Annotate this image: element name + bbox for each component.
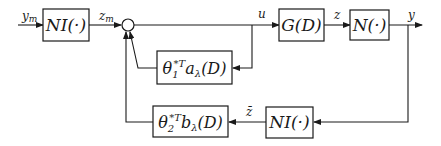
block-theta1-label: θ1*Taλ(D) [163,58,227,80]
summing-junction [122,19,134,31]
block-ni-input-label: NI(·) [45,15,86,35]
wire-theta2-to-sum [126,32,153,122]
block-diagram: NI(·) G(D) N(·) θ1*Taλ(D) θ2*Tbλ(D) NI(·… [0,0,441,146]
signal-label-y: y [407,8,415,22]
signal-label-u: u [258,7,266,21]
block-g-label: G(D) [281,15,321,35]
wire-theta1-to-sum [130,32,157,68]
signal-label-zbar: z̄ [245,105,253,119]
signal-label-z: z [333,8,341,22]
wire-u-to-theta1 [233,25,252,68]
signal-label-zm: zm [98,9,114,24]
block-n-label: N(·) [352,15,387,35]
signal-label-ym: ym [21,9,37,24]
block-ni-feedback-label: NI(·) [268,112,309,132]
